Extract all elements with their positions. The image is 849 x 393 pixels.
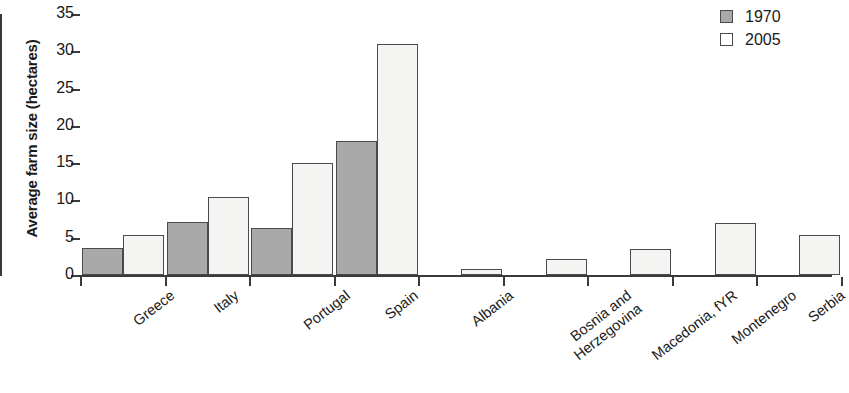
bar-serbia-2005 <box>799 235 840 275</box>
bar-portugal-1970 <box>251 228 292 275</box>
y-axis-title: Average farm size (hectares) <box>23 4 40 274</box>
y-tick-label: 0 <box>65 265 74 283</box>
y-tick-label: 30 <box>56 41 74 59</box>
bar-italy-2005 <box>208 197 249 275</box>
y-tick-label: 5 <box>65 228 74 246</box>
x-axis-label-line1: Montenegro <box>728 287 799 347</box>
x-axis-label-line1: Portugal <box>301 287 353 333</box>
x-axis-label-italy: Italy <box>210 287 241 317</box>
x-axis-label-line1: Italy <box>210 287 241 316</box>
x-tick-mark <box>672 277 674 286</box>
x-axis-label-greece: Greece <box>130 287 178 330</box>
y-axis-line <box>0 14 2 276</box>
bar-italy-1970 <box>167 222 208 275</box>
x-tick-mark <box>841 277 843 286</box>
bar-spain-2005 <box>377 44 418 275</box>
x-axis-label-line1: Macedonia, fYR <box>649 287 740 363</box>
legend-swatch-2005-icon <box>720 33 733 46</box>
x-axis-label-line1: Spain <box>382 287 421 322</box>
bar-albania-2005 <box>461 269 502 275</box>
bar-bosnia-and-herzegovina-2005 <box>546 259 587 275</box>
x-tick-mark <box>80 277 82 286</box>
x-axis-label-serbia: Serbia <box>805 287 849 326</box>
x-axis-line <box>80 275 832 277</box>
x-axis-label-line1: Greece <box>130 287 177 329</box>
x-axis-label-portugal: Portugal <box>301 287 354 334</box>
x-axis-label-macedonia-fyr: Macedonia, fYR <box>649 287 741 364</box>
x-axis-label-bosnia-and: Bosnia andHerzegovina <box>560 287 645 364</box>
legend-item-2005: 2005 <box>720 29 828 50</box>
x-axis-label-albania: Albania <box>469 287 518 330</box>
legend-label-1970: 1970 <box>745 8 781 26</box>
x-axis-label-montenegro: Montenegro <box>728 287 799 348</box>
bar-greece-2005 <box>123 235 164 275</box>
x-tick-mark <box>587 277 589 286</box>
legend-swatch-1970-icon <box>720 10 733 23</box>
x-tick-mark <box>756 277 758 286</box>
y-tick-label: 20 <box>56 116 74 134</box>
legend-item-1970: 1970 <box>720 6 828 27</box>
x-tick-mark <box>334 277 336 286</box>
legend: 1970 2005 <box>720 6 828 52</box>
bar-spain-1970 <box>336 141 377 275</box>
x-tick-mark <box>165 277 167 286</box>
legend-label-2005: 2005 <box>745 31 781 49</box>
x-tick-mark <box>503 277 505 286</box>
x-axis-label-spain: Spain <box>382 287 422 323</box>
y-tick-label: 15 <box>56 153 74 171</box>
bar-macedonia-fyr-2005 <box>630 249 671 275</box>
bar-portugal-2005 <box>292 163 333 275</box>
x-axis-label-line1: Albania <box>469 287 517 329</box>
y-tick-label: 35 <box>56 4 74 22</box>
y-tick-label: 25 <box>56 79 74 97</box>
bar-greece-1970 <box>82 248 123 275</box>
y-tick-label: 10 <box>56 190 74 208</box>
bar-montenegro-2005 <box>715 223 756 275</box>
x-tick-mark <box>249 277 251 286</box>
x-axis-label-line1: Serbia <box>805 287 848 325</box>
x-tick-mark <box>418 277 420 286</box>
